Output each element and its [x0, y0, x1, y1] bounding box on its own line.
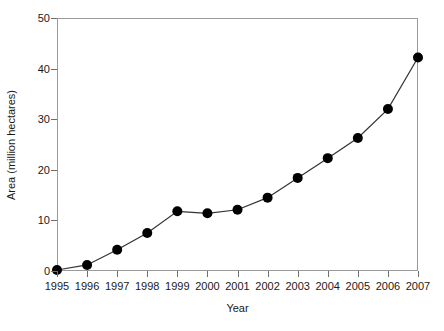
x-tick-mark	[268, 271, 269, 277]
x-tick-mark	[418, 271, 419, 277]
x-tick-mark	[207, 271, 208, 277]
y-tick-label: 30	[22, 114, 50, 125]
y-tick-label: 40	[22, 63, 50, 74]
y-tick-label: 0	[22, 266, 50, 277]
x-axis-tick-labels: 1995199619971998199920002001200220032004…	[0, 280, 444, 296]
y-axis-label-text: Area (million hectares)	[5, 89, 17, 199]
x-tick-mark	[298, 271, 299, 277]
x-tick-mark	[57, 271, 58, 277]
y-tick-label: 20	[22, 164, 50, 175]
x-tick-mark	[147, 271, 148, 277]
y-tick-mark	[51, 220, 57, 221]
y-tick-label: 50	[22, 13, 50, 24]
x-tick-label: 2007	[398, 280, 438, 293]
x-tick-mark	[177, 271, 178, 277]
x-axis-label: Year	[57, 302, 418, 314]
y-axis-label: Area (million hectares)	[3, 18, 19, 271]
y-tick-mark	[51, 119, 57, 120]
plot-area	[57, 18, 418, 271]
y-tick-mark	[51, 18, 57, 19]
x-tick-mark	[238, 271, 239, 277]
y-tick-mark	[51, 170, 57, 171]
x-tick-mark	[117, 271, 118, 277]
x-tick-mark	[87, 271, 88, 277]
y-tick-label: 10	[22, 215, 50, 226]
x-tick-mark	[358, 271, 359, 277]
x-tick-mark	[388, 271, 389, 277]
chart-figure: Area (million hectares) 01020304050 1995…	[0, 0, 444, 331]
y-tick-mark	[51, 69, 57, 70]
x-tick-mark	[328, 271, 329, 277]
